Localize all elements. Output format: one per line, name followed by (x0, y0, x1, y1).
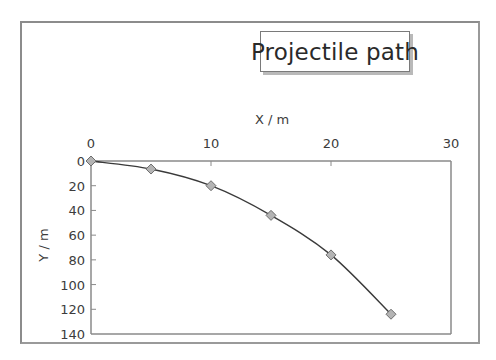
x-axis-label: X / m (255, 112, 289, 127)
x-tick-label: 0 (87, 136, 95, 151)
y-tick-label: 0 (77, 154, 85, 169)
data-point-diamond-icon (266, 210, 276, 220)
y-axis-label: Y / m (36, 228, 51, 262)
y-tick-label: 20 (68, 179, 85, 194)
x-tick-label: 30 (443, 136, 460, 151)
data-point-diamond-icon (206, 181, 216, 191)
y-tick-label: 140 (60, 327, 85, 342)
y-tick-label: 80 (68, 253, 85, 268)
y-tick-label: 120 (60, 302, 85, 317)
y-tick-label: 60 (68, 228, 85, 243)
y-tick-label: 100 (60, 278, 85, 293)
data-point-diamond-icon (146, 164, 156, 174)
x-tick-label: 20 (323, 136, 340, 151)
data-point-diamond-icon (86, 156, 96, 166)
x-tick-label: 10 (203, 136, 220, 151)
trajectory-curve (91, 161, 391, 314)
y-tick-label: 40 (68, 203, 85, 218)
plot-area: 0102030020406080100120140 X / m Y / m (0, 0, 496, 360)
